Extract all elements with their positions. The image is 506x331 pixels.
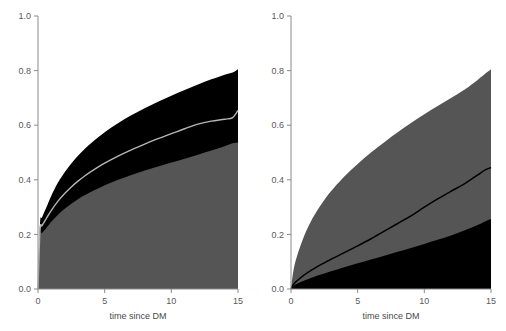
left-panel-canvas: 0.00.20.40.60.81.0051015time since DM <box>0 0 253 331</box>
y-tick-label: 0.2 <box>18 230 31 240</box>
left-panel-plot: 0.00.20.40.60.81.0051015time since DM <box>0 0 253 331</box>
x-axis-title: time since DM <box>109 311 166 321</box>
x-tick-label: 5 <box>102 296 107 306</box>
y-tick-label: 0.0 <box>271 284 284 294</box>
x-tick-label: 15 <box>233 296 243 306</box>
y-tick-label: 0.4 <box>18 175 31 185</box>
y-tick-label: 0.6 <box>18 120 31 130</box>
x-tick-label: 0 <box>35 296 40 306</box>
right-panel: 0.00.20.40.60.81.0051015time since DM <box>253 0 506 331</box>
x-tick-label: 10 <box>419 296 429 306</box>
x-tick-label: 15 <box>486 296 496 306</box>
right-panel-canvas: 0.00.20.40.60.81.0051015time since DM <box>253 0 506 331</box>
y-tick-label: 0.8 <box>18 66 31 76</box>
y-tick-label: 0.8 <box>271 66 284 76</box>
right-panel-plot: 0.00.20.40.60.81.0051015time since DM <box>253 0 506 331</box>
y-tick-label: 0.4 <box>271 175 284 185</box>
y-tick-label: 0.0 <box>18 284 31 294</box>
y-tick-label: 0.6 <box>271 120 284 130</box>
y-tick-label: 1.0 <box>18 11 31 21</box>
x-tick-label: 5 <box>355 296 360 306</box>
x-tick-label: 0 <box>288 296 293 306</box>
y-tick-label: 0.2 <box>271 230 284 240</box>
x-axis-title: time since DM <box>362 311 419 321</box>
y-tick-label: 1.0 <box>271 11 284 21</box>
x-tick-label: 10 <box>166 296 176 306</box>
figure-root: 0.00.20.40.60.81.0051015time since DM 0.… <box>0 0 506 331</box>
left-panel: 0.00.20.40.60.81.0051015time since DM <box>0 0 253 331</box>
